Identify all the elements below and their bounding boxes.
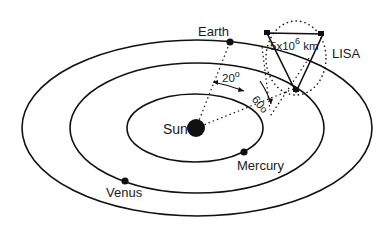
mercury-icon xyxy=(240,148,247,155)
angle-20-value: 20 xyxy=(222,72,235,84)
angle-20-degree: o xyxy=(235,69,240,79)
lisa-spacecraft-1 xyxy=(264,30,270,35)
venus-icon xyxy=(121,177,128,184)
lisa-orbit-diagram: Sun Earth Mercury Venus LISA 5x106 km 20… xyxy=(0,0,387,228)
lisa-spacecraft-2 xyxy=(318,31,324,36)
lisa-orbit-circle xyxy=(266,21,326,95)
lisa-spacecraft-3 xyxy=(293,87,299,92)
mercury-label: Mercury xyxy=(237,158,284,173)
sun-icon xyxy=(187,119,205,137)
lisa-plane-guide-2 xyxy=(269,58,309,118)
arm-length-base: 5x10 xyxy=(270,40,295,52)
arm-length-label: 5x106 km xyxy=(270,36,318,52)
lisa-label: LISA xyxy=(332,46,361,61)
venus-label: Venus xyxy=(106,185,143,200)
earth-label: Earth xyxy=(198,24,229,39)
angle-20-label: 20o xyxy=(222,69,240,84)
earth-icon xyxy=(226,38,233,45)
sun-lisa-guide xyxy=(196,88,296,128)
sun-label: Sun xyxy=(163,121,188,137)
arm-length-unit: km xyxy=(300,40,319,52)
